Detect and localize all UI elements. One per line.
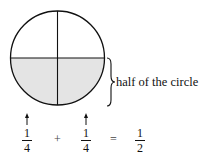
equals-operator: =	[110, 133, 117, 145]
denominator: 4	[79, 142, 93, 152]
fraction-one-half: 1 2	[133, 127, 147, 152]
denominator: 4	[20, 142, 34, 152]
curly-brace-icon	[107, 58, 115, 106]
numerator: 1	[20, 127, 34, 139]
fraction-one-quarter: 1 4	[79, 127, 93, 152]
brace-label: half of the circle	[116, 76, 198, 89]
plus-operator: +	[54, 133, 61, 145]
fraction-one-quarter: 1 4	[20, 127, 34, 152]
arrow-up-icon	[84, 113, 88, 125]
denominator: 2	[133, 142, 147, 152]
numerator: 1	[79, 127, 93, 139]
numerator: 1	[133, 127, 147, 139]
arrow-up-icon	[25, 113, 29, 125]
